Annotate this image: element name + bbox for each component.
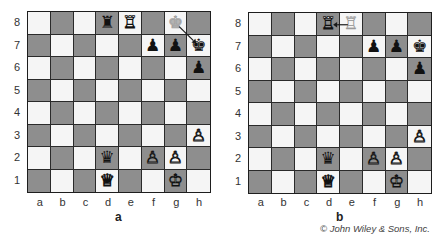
square-c1[interactable] — [74, 170, 97, 193]
square-b2[interactable] — [51, 147, 74, 170]
square-h5[interactable] — [187, 80, 210, 103]
white-pawn-icon[interactable]: ♙ — [168, 149, 183, 166]
square-e3[interactable] — [119, 125, 142, 148]
square-c3[interactable] — [295, 126, 318, 149]
square-e4[interactable] — [119, 102, 142, 125]
square-a7[interactable] — [249, 36, 272, 59]
square-b5[interactable] — [51, 80, 74, 103]
white-pawn-icon[interactable]: ♙ — [145, 149, 160, 166]
square-a5[interactable] — [28, 80, 51, 103]
square-f6[interactable] — [142, 57, 165, 80]
square-f8[interactable] — [363, 13, 386, 36]
square-d2[interactable]: ♛ — [317, 148, 340, 171]
square-f2[interactable]: ♙ — [363, 148, 386, 171]
white-king-icon[interactable]: ♔ — [389, 173, 404, 190]
square-c8[interactable] — [295, 13, 318, 36]
square-b1[interactable] — [51, 170, 74, 193]
square-d1[interactable]: ♕ — [317, 171, 340, 194]
square-d6[interactable] — [96, 57, 119, 80]
square-c3[interactable] — [74, 125, 97, 148]
square-e6[interactable] — [340, 58, 363, 81]
square-c6[interactable] — [74, 57, 97, 80]
square-c2[interactable] — [295, 148, 318, 171]
square-a4[interactable] — [28, 102, 51, 125]
square-c7[interactable] — [295, 36, 318, 59]
black-king-icon[interactable]: ♚ — [412, 38, 427, 55]
square-a7[interactable] — [28, 35, 51, 58]
square-h6[interactable]: ♟ — [408, 58, 431, 81]
ghost-white-rook-icon[interactable]: ♖ — [343, 15, 358, 32]
square-h7[interactable]: ♚ — [187, 35, 210, 58]
square-h8[interactable] — [187, 12, 210, 35]
white-pawn-icon[interactable]: ♙ — [191, 127, 206, 144]
square-f7[interactable]: ♟ — [363, 36, 386, 59]
square-a4[interactable] — [249, 103, 272, 126]
square-d7[interactable] — [317, 36, 340, 59]
black-queen-icon[interactable]: ♛ — [100, 149, 115, 166]
square-h5[interactable] — [408, 81, 431, 104]
square-c5[interactable] — [74, 80, 97, 103]
square-f4[interactable] — [142, 102, 165, 125]
square-f6[interactable] — [363, 58, 386, 81]
square-g8[interactable] — [386, 13, 409, 36]
square-h2[interactable] — [187, 147, 210, 170]
square-g1[interactable]: ♔ — [386, 171, 409, 194]
square-g7[interactable]: ♟ — [165, 35, 188, 58]
square-g4[interactable] — [165, 102, 188, 125]
square-d3[interactable] — [96, 125, 119, 148]
square-f8[interactable] — [142, 12, 165, 35]
square-b8[interactable] — [51, 12, 74, 35]
square-e5[interactable] — [119, 80, 142, 103]
square-b5[interactable] — [272, 81, 295, 104]
square-g2[interactable]: ♙ — [165, 147, 188, 170]
square-g1[interactable]: ♔ — [165, 170, 188, 193]
square-e5[interactable] — [340, 81, 363, 104]
square-d5[interactable] — [96, 80, 119, 103]
square-e2[interactable] — [340, 148, 363, 171]
square-c2[interactable] — [74, 147, 97, 170]
square-f3[interactable] — [363, 126, 386, 149]
square-h3[interactable]: ♙ — [408, 126, 431, 149]
square-d5[interactable] — [317, 81, 340, 104]
square-g7[interactable]: ♟ — [386, 36, 409, 59]
black-pawn-icon[interactable]: ♟ — [145, 37, 160, 54]
square-h1[interactable] — [408, 171, 431, 194]
square-g4[interactable] — [386, 103, 409, 126]
square-e8[interactable]: ♖ — [340, 13, 363, 36]
square-e7[interactable] — [119, 35, 142, 58]
square-h8[interactable] — [408, 13, 431, 36]
square-e3[interactable] — [340, 126, 363, 149]
square-g5[interactable] — [165, 80, 188, 103]
square-a2[interactable] — [28, 147, 51, 170]
square-a3[interactable] — [249, 126, 272, 149]
square-b6[interactable] — [51, 57, 74, 80]
square-d8[interactable]: ♖ — [317, 13, 340, 36]
square-f1[interactable] — [142, 170, 165, 193]
square-d6[interactable] — [317, 58, 340, 81]
square-g6[interactable] — [165, 57, 188, 80]
square-b2[interactable] — [272, 148, 295, 171]
square-h4[interactable] — [187, 102, 210, 125]
square-h1[interactable] — [187, 170, 210, 193]
square-b6[interactable] — [272, 58, 295, 81]
square-h2[interactable] — [408, 148, 431, 171]
square-c4[interactable] — [295, 103, 318, 126]
square-g6[interactable] — [386, 58, 409, 81]
square-a2[interactable] — [249, 148, 272, 171]
square-a8[interactable] — [249, 13, 272, 36]
square-f7[interactable]: ♟ — [142, 35, 165, 58]
square-a1[interactable] — [249, 171, 272, 194]
square-f3[interactable] — [142, 125, 165, 148]
square-b4[interactable] — [272, 103, 295, 126]
square-c5[interactable] — [295, 81, 318, 104]
black-pawn-icon[interactable]: ♟ — [191, 59, 206, 76]
white-rook-icon[interactable]: ♖ — [122, 14, 137, 31]
square-d8[interactable]: ♜ — [96, 12, 119, 35]
square-d4[interactable] — [96, 102, 119, 125]
square-c4[interactable] — [74, 102, 97, 125]
white-pawn-icon[interactable]: ♙ — [389, 150, 404, 167]
square-b7[interactable] — [272, 36, 295, 59]
square-e1[interactable] — [119, 170, 142, 193]
square-a6[interactable] — [28, 57, 51, 80]
square-h3[interactable]: ♙ — [187, 125, 210, 148]
